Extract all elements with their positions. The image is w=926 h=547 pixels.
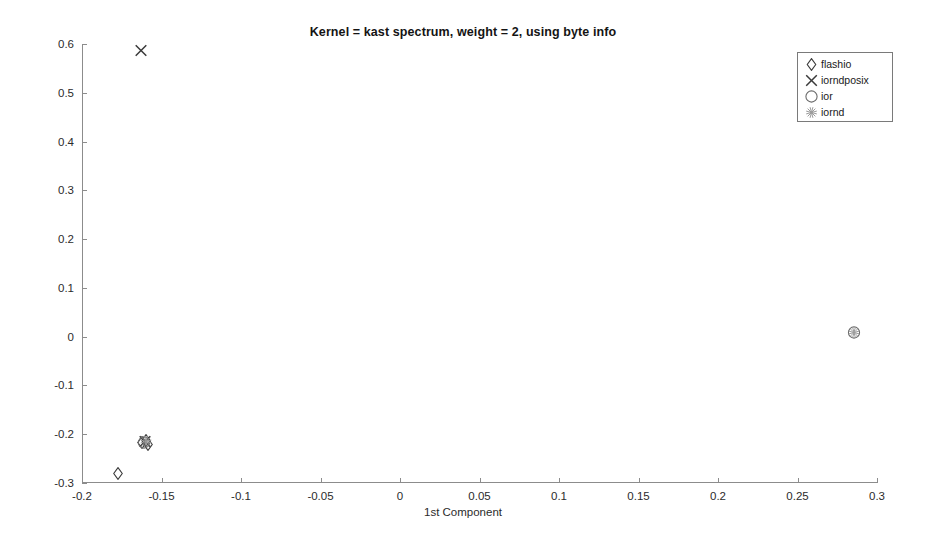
legend-item-iornd: iornd <box>798 104 892 120</box>
y-tick-label: 0.6 <box>58 38 74 50</box>
x-tick <box>559 478 560 483</box>
y-tick <box>82 434 87 435</box>
x-tick-label: 0.2 <box>710 490 726 502</box>
x-tick <box>162 478 163 483</box>
x-tick-label: 0.25 <box>786 490 808 502</box>
x-tick <box>798 478 799 483</box>
y-tick-label: 0.4 <box>58 136 74 148</box>
y-tick-label: -0.1 <box>54 379 74 391</box>
y-tick-label: -0.3 <box>54 477 74 489</box>
y-tick-label: -0.2 <box>54 428 74 440</box>
x-axis-label: 1st Component <box>0 506 926 518</box>
legend-item-ior: ior <box>798 88 892 104</box>
y-tick <box>82 190 87 191</box>
x-tick-label: 0.15 <box>627 490 649 502</box>
figure-canvas: Kernel = kast spectrum, weight = 2, usin… <box>0 0 926 547</box>
y-tick-label: 0.5 <box>58 87 74 99</box>
y-tick <box>82 93 87 94</box>
x-tick-label: -0.1 <box>231 490 251 502</box>
y-tick-label: 0.3 <box>58 184 74 196</box>
x-tick-label: -0.15 <box>148 490 174 502</box>
legend-item-label: ior <box>821 91 833 102</box>
y-tick <box>82 385 87 386</box>
asterisk-icon <box>801 104 821 120</box>
y-tick-label: 0.2 <box>58 233 74 245</box>
legend-item-flashio: flashio <box>798 56 892 72</box>
x-tick-label: 0.05 <box>468 490 490 502</box>
x-tick-label: 0.3 <box>869 490 885 502</box>
circle-icon <box>801 88 821 104</box>
legend-item-iorndposix: iorndposix <box>798 72 892 88</box>
x-tick-label: -0.05 <box>307 490 333 502</box>
y-tick <box>82 142 87 143</box>
x-tick-label: -0.2 <box>72 490 92 502</box>
x-tick <box>718 478 719 483</box>
y-tick-label: 0 <box>68 331 74 343</box>
y-tick <box>82 288 87 289</box>
x-tick <box>82 478 83 483</box>
x-tick <box>400 478 401 483</box>
y-axis-line <box>82 44 83 483</box>
x-tick <box>480 478 481 483</box>
x-tick-label: 0.1 <box>551 490 567 502</box>
x-tick <box>639 478 640 483</box>
legend-item-label: iornd <box>821 107 844 118</box>
x-tick <box>241 478 242 483</box>
y-tick <box>82 337 87 338</box>
legend-item-label: iorndposix <box>821 75 869 86</box>
chart-title: Kernel = kast spectrum, weight = 2, usin… <box>0 25 926 39</box>
plot-box-border <box>82 44 877 483</box>
x-tick-label: 0 <box>397 490 403 502</box>
y-tick-label: 0.1 <box>58 282 74 294</box>
y-tick <box>82 239 87 240</box>
x-tick <box>321 478 322 483</box>
y-tick <box>82 483 87 484</box>
legend-box: flashioiorndposixioriornd <box>797 52 893 122</box>
x-tick <box>877 478 878 483</box>
y-tick <box>82 44 87 45</box>
legend-item-label: flashio <box>821 59 851 70</box>
plot-area: -0.3-0.2-0.100.10.20.30.40.50.6 -0.2-0.1… <box>82 44 877 483</box>
diamond-icon <box>801 56 821 72</box>
cross-icon <box>801 72 821 88</box>
